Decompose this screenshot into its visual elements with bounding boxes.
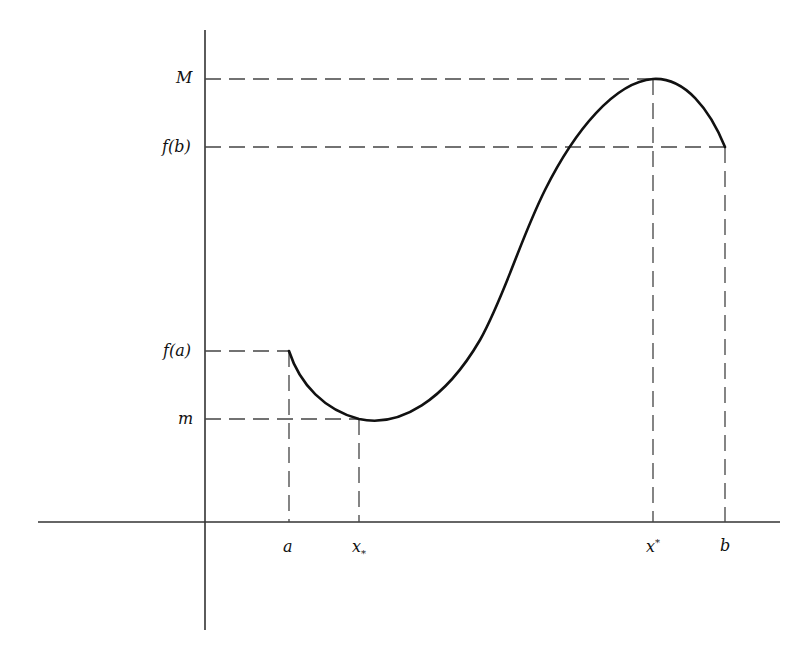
label-m: m: [178, 411, 193, 427]
label-b: b: [720, 538, 730, 554]
label-x-lower: x*: [352, 539, 366, 555]
label-x-lower-mark: *: [361, 548, 366, 559]
label-x-upper-mark: *: [655, 537, 660, 548]
label-a: a: [283, 539, 293, 555]
label-x-upper-base: x: [646, 537, 655, 556]
label-fa: f(a): [163, 343, 191, 359]
figure-canvas: M f(b) f(a) m a x* x* b: [0, 0, 809, 651]
label-x-lower-base: x: [352, 537, 361, 556]
label-M: M: [176, 70, 192, 86]
label-x-upper: x*: [646, 539, 660, 555]
plot-svg: [0, 0, 809, 651]
function-curve: [289, 79, 725, 421]
label-fb: f(b): [162, 139, 191, 155]
